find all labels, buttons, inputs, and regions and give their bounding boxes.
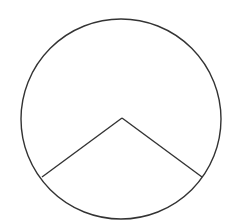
circle-sector-diagram xyxy=(0,0,230,224)
radius-line-left xyxy=(42,118,122,177)
radius-line-right xyxy=(122,118,202,177)
